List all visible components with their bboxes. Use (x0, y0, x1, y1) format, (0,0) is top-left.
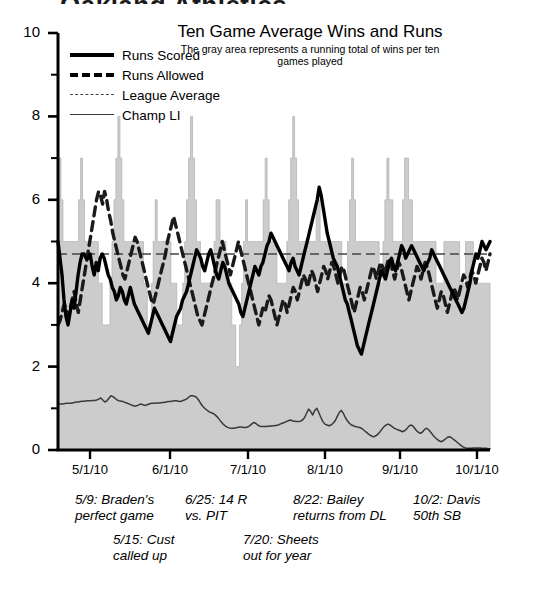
y-tick-label: 6 (14, 190, 40, 207)
annotation-note: 10/2: Davis 50th SB (413, 492, 481, 524)
annotation-note: 7/20: Sheets out for year (243, 532, 319, 564)
wins-running-total-area (58, 116, 490, 450)
annotation-note: 5/9: Braden's perfect game (75, 492, 154, 524)
x-tick-label: 10/1/10 (437, 462, 517, 477)
annotation-note: 6/25: 14 R vs. PIT (185, 492, 247, 524)
annotation-note: 5/15: Cust called up (113, 532, 175, 564)
x-tick-label: 7/1/10 (208, 462, 288, 477)
chart-page: Oakland Athletics Ten Game Average Wins … (0, 0, 550, 590)
x-tick-label: 9/1/10 (360, 462, 440, 477)
x-tick-label: 6/1/10 (130, 462, 210, 477)
y-tick-label: 8 (14, 106, 40, 123)
y-tick-label: 4 (14, 273, 40, 290)
y-tick-label: 10 (14, 23, 40, 40)
y-tick-label: 0 (14, 440, 40, 457)
annotation-note: 8/22: Bailey returns from DL (293, 492, 387, 524)
x-tick-label: 5/1/10 (50, 462, 130, 477)
y-tick-label: 2 (14, 357, 40, 374)
x-tick-label: 8/1/10 (285, 462, 365, 477)
